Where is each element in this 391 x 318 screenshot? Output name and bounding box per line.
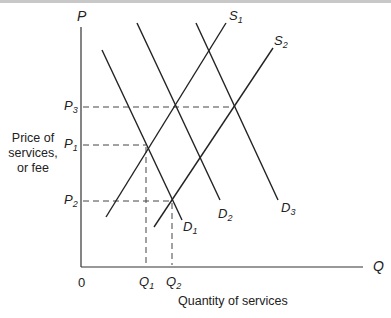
p1-main: P [64, 136, 73, 151]
p3-main: P [64, 98, 73, 113]
y-axis-title-line2: services, [2, 146, 64, 161]
p2-sub: 2 [73, 199, 78, 209]
q2-label: Q2 [166, 274, 181, 291]
p2-main: P [64, 192, 73, 207]
s2-main: S [274, 33, 283, 48]
d1-main: D [183, 219, 192, 234]
d3-main: D [281, 200, 290, 215]
q2-sub: 2 [176, 281, 181, 291]
d2-main: D [218, 206, 227, 221]
supply-curve-s2 [154, 48, 273, 227]
y-axis-title-line3: or fee [2, 161, 64, 176]
y-axis-title: Price of services, or fee [2, 131, 64, 176]
q2-main: Q [166, 274, 176, 289]
q1-sub: 1 [149, 281, 154, 291]
s1-sub: 1 [238, 15, 243, 25]
d3-sub: 3 [290, 207, 295, 217]
origin-label: 0 [78, 275, 85, 290]
y-axis-title-line1: Price of [2, 131, 64, 146]
s2-label: S2 [274, 33, 288, 50]
p3-label: P3 [64, 98, 78, 115]
p1-label: P1 [64, 136, 78, 153]
s1-label: S1 [229, 8, 243, 25]
p1-sub: 1 [73, 143, 78, 153]
q1-main: Q [139, 274, 149, 289]
x-axis-label: Q [373, 258, 384, 274]
d3-label: D3 [281, 200, 295, 217]
p3-sub: 3 [73, 105, 78, 115]
d2-label: D2 [218, 206, 232, 223]
y-axis-label: P [77, 8, 86, 24]
demand-curve-d1 [102, 50, 182, 220]
s2-sub: 2 [283, 40, 288, 50]
d1-sub: 1 [192, 226, 197, 236]
q1-label: Q1 [139, 274, 154, 291]
d2-sub: 2 [227, 213, 232, 223]
x-axis-title: Quantity of services [178, 294, 288, 308]
p2-label: P2 [64, 192, 78, 209]
s1-main: S [229, 8, 238, 23]
d1-label: D1 [183, 219, 197, 236]
supply-curve-s1 [106, 23, 226, 217]
